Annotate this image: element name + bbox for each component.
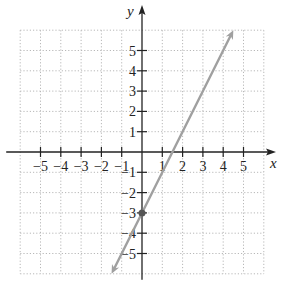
coordinate-plane: −5−4−3−2−11234554321−1−2−3−4−5 x y — [0, 0, 281, 299]
x-tick-label: −4 — [53, 159, 68, 174]
y-axis-label: y — [125, 3, 134, 19]
x-tick-label: 5 — [240, 159, 247, 174]
axes — [6, 5, 276, 280]
y-tick-label: 4 — [129, 64, 136, 79]
y-tick-label: −3 — [121, 206, 136, 221]
y-tick-label: 1 — [129, 125, 136, 140]
x-tick-label: −5 — [33, 159, 48, 174]
y-tick-label: 2 — [129, 104, 136, 119]
x-tick-label: 4 — [220, 159, 227, 174]
y-tick-label: 5 — [129, 44, 136, 59]
x-tick-label: −3 — [74, 159, 89, 174]
x-tick-label: 2 — [179, 159, 186, 174]
y-tick-label: −1 — [121, 165, 136, 180]
x-tick-label: 3 — [199, 159, 206, 174]
x-axis-label: x — [269, 155, 277, 171]
y-tick-label: −2 — [121, 186, 136, 201]
y-tick-label: 3 — [129, 84, 136, 99]
y-intercept-point — [139, 209, 146, 216]
x-tick-label: −2 — [94, 159, 109, 174]
